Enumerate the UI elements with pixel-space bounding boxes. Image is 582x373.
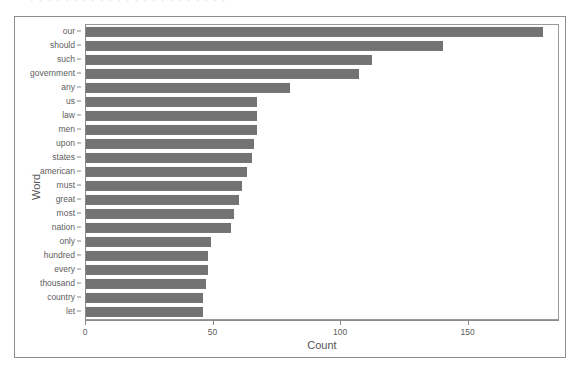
y-axis-tick-mark [77, 255, 81, 256]
y-axis-tick-labels: ourshouldsuchgovernmentanyuslawmenuponst… [15, 24, 81, 320]
y-axis-tick-mark [77, 59, 81, 60]
y-axis-tick-label: let [66, 306, 75, 316]
y-axis-tick-label: thousand [40, 278, 75, 288]
y-axis-tick-label: should [50, 40, 75, 50]
bar [86, 83, 290, 93]
y-axis-tick-label: only [59, 236, 75, 246]
y-axis-tick-mark [77, 241, 81, 242]
bar [86, 153, 252, 163]
y-axis-tick-mark [77, 115, 81, 116]
plot-panel [85, 24, 559, 320]
bar [86, 307, 203, 317]
figure-inner: Word ourshouldsuchgovernmentanyuslawmenu… [15, 17, 565, 357]
bar [86, 97, 257, 107]
x-axis-tick-label: 150 [461, 327, 475, 337]
y-axis-tick-label: hundred [44, 250, 75, 260]
y-axis-tick-label: such [57, 54, 75, 64]
x-axis-tick-label: 0 [83, 327, 88, 337]
bar [86, 27, 543, 37]
y-axis-tick-label: great [56, 194, 75, 204]
bar [86, 237, 211, 247]
y-axis-tick-mark [77, 269, 81, 270]
bar [86, 111, 257, 121]
y-axis-tick-label: must [57, 180, 75, 190]
y-axis-tick-label: upon [56, 138, 75, 148]
y-axis-tick-label: nation [52, 222, 75, 232]
bar [86, 195, 239, 205]
x-axis-tick-label: 50 [208, 327, 217, 337]
y-axis-tick-mark [77, 157, 81, 158]
bar [86, 41, 443, 51]
y-axis-tick-mark [77, 283, 81, 284]
bar [86, 125, 257, 135]
y-axis-tick-label: most [57, 208, 75, 218]
bar [86, 69, 359, 79]
bar [86, 293, 203, 303]
y-axis-tick-mark [77, 87, 81, 88]
figure-frame: Word ourshouldsuchgovernmentanyuslawmenu… [14, 16, 566, 358]
scan-artifact-text: · · · · · · · · · · · · · · · · · · · · … [30, 0, 330, 6]
x-axis-tick-mark [340, 321, 341, 325]
bar [86, 209, 234, 219]
y-axis-tick-mark [77, 199, 81, 200]
y-axis-tick-label: men [58, 124, 75, 134]
bar [86, 167, 247, 177]
y-axis-tick-label: law [62, 110, 75, 120]
bar [86, 139, 254, 149]
bar [86, 265, 208, 275]
y-axis-tick-mark [77, 227, 81, 228]
y-axis-tick-mark [77, 171, 81, 172]
x-axis-tick-mark [468, 321, 469, 325]
y-axis-tick-mark [77, 311, 81, 312]
x-axis-tick-mark [85, 321, 86, 325]
y-axis-tick-mark [77, 129, 81, 130]
x-axis-tick-label: 100 [333, 327, 347, 337]
bar [86, 181, 242, 191]
y-axis-tick-mark [77, 31, 81, 32]
x-axis-title: Count [85, 339, 559, 351]
y-axis-tick-label: our [63, 26, 75, 36]
y-axis-tick-mark [77, 143, 81, 144]
y-axis-tick-label: us [66, 96, 75, 106]
y-axis-tick-label: government [30, 68, 75, 78]
y-axis-tick-mark [77, 297, 81, 298]
bar [86, 279, 206, 289]
y-axis-tick-label: every [54, 264, 75, 274]
x-axis-tick-mark [213, 321, 214, 325]
y-axis-tick-label: states [52, 152, 75, 162]
y-axis-tick-label: american [40, 166, 75, 176]
y-axis-tick-label: country [47, 292, 75, 302]
y-axis-tick-mark [77, 45, 81, 46]
y-axis-tick-label: any [61, 82, 75, 92]
bar [86, 55, 372, 65]
y-axis-tick-mark [77, 213, 81, 214]
y-axis-tick-mark [77, 185, 81, 186]
y-axis-tick-mark [77, 101, 81, 102]
x-axis-tick-labels: 050100150 [85, 321, 559, 339]
bar [86, 223, 231, 233]
bar [86, 251, 208, 261]
y-axis-tick-mark [77, 73, 81, 74]
